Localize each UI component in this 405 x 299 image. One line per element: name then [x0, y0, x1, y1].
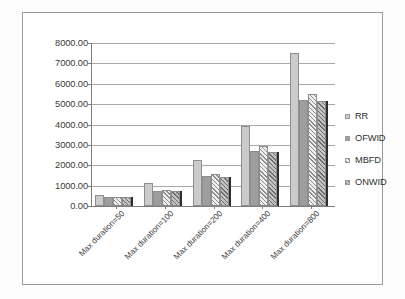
bar-body — [153, 191, 162, 206]
bar-rr-0 — [95, 195, 104, 206]
x-axis-tick-mark — [262, 205, 263, 209]
legend-label: RR — [355, 111, 368, 121]
x-axis-tick-mark — [214, 205, 215, 209]
y-axis-tick-labels: 8000.007000.006000.005000.004000.003000.… — [25, 43, 88, 206]
bar-body — [193, 160, 202, 206]
bar-rr-2 — [193, 160, 202, 206]
bar-shadow — [277, 152, 279, 206]
y-axis-line — [91, 43, 92, 206]
bar-body — [259, 146, 268, 206]
x-axis-tick-labels: Max duration=50Max duration=100Max durat… — [92, 209, 335, 289]
legend-swatch-onwid — [345, 180, 350, 185]
bar-onwid-0 — [122, 197, 131, 206]
bar-body — [268, 152, 277, 206]
chart-frame: 8000.007000.006000.005000.004000.003000.… — [22, 12, 383, 285]
bar-mbfd-4 — [308, 94, 317, 206]
y-axis-tick-label: 8000.00 — [28, 38, 88, 48]
bar-body — [317, 101, 326, 206]
x-axis-tick-label: Max duration=200 — [172, 209, 224, 261]
y-axis-tick-label: 2000.00 — [28, 160, 88, 170]
bar-body — [122, 197, 131, 206]
bar-body — [290, 53, 299, 206]
bar-ofwid-1 — [153, 191, 162, 206]
bar-body — [104, 197, 113, 206]
bar-onwid-4 — [317, 101, 326, 206]
bar-body — [220, 177, 229, 206]
bar-rr-1 — [144, 183, 153, 206]
bar-body — [211, 174, 220, 206]
bar-mbfd-2 — [211, 174, 220, 206]
y-axis-tick-label: 7000.00 — [28, 58, 88, 68]
legend-label: ONWID — [355, 177, 387, 187]
bar-body — [308, 94, 317, 206]
y-axis-tick-label: 4000.00 — [28, 120, 88, 130]
y-axis-tick-label: 1000.00 — [28, 181, 88, 191]
bar-body — [113, 197, 122, 206]
bar-ofwid-4 — [299, 100, 308, 206]
y-axis-tick-label: 0.00 — [28, 201, 88, 211]
legend-label: MBFD — [355, 155, 381, 165]
plot-area — [92, 43, 335, 206]
legend-item-onwid[interactable]: ONWID — [345, 171, 405, 193]
x-axis-tick-mark — [116, 205, 117, 209]
legend-label: OFWID — [355, 133, 385, 143]
bar-body — [299, 100, 308, 206]
bar-ofwid-3 — [250, 151, 259, 206]
legend-swatch-ofwid — [345, 136, 350, 141]
bar-onwid-1 — [171, 191, 180, 206]
bar-group — [95, 43, 131, 206]
bar-onwid-3 — [268, 152, 277, 206]
bar-body — [241, 126, 250, 206]
legend-item-rr[interactable]: RR — [345, 105, 405, 127]
legend-swatch-rr — [345, 114, 350, 119]
figure: 8000.007000.006000.005000.004000.003000.… — [0, 0, 405, 299]
legend-swatch-mbfd — [345, 158, 350, 163]
bar-body — [95, 195, 104, 206]
bar-shadow — [229, 177, 231, 206]
bar-body — [162, 190, 171, 206]
bar-rr-4 — [290, 53, 299, 206]
bar-body — [144, 183, 153, 206]
bar-ofwid-2 — [202, 176, 211, 206]
x-axis-tick-mark — [165, 205, 166, 209]
y-axis-tick-label: 6000.00 — [28, 79, 88, 89]
bar-body — [250, 151, 259, 206]
bar-onwid-2 — [220, 177, 229, 206]
x-axis-tick-label: Max duration=400 — [220, 209, 272, 261]
bar-group — [144, 43, 180, 206]
bar-shadow — [180, 191, 182, 206]
bar-body — [171, 191, 180, 206]
x-axis-tick-label: Max duration=50 — [78, 209, 127, 258]
y-axis-tick-label: 3000.00 — [28, 140, 88, 150]
bar-mbfd-0 — [113, 197, 122, 206]
bar-rr-3 — [241, 126, 250, 206]
bar-ofwid-0 — [104, 197, 113, 206]
bar-mbfd-3 — [259, 146, 268, 206]
bar-body — [202, 176, 211, 206]
y-axis-tick-label: 5000.00 — [28, 99, 88, 109]
bar-group — [241, 43, 277, 206]
legend-item-ofwid[interactable]: OFWID — [345, 127, 405, 149]
bar-group — [290, 43, 326, 206]
bar-mbfd-1 — [162, 190, 171, 206]
bar-shadow — [326, 101, 328, 206]
x-axis-tick-label: Max duration=800 — [269, 209, 321, 261]
legend-item-mbfd[interactable]: MBFD — [345, 149, 405, 171]
x-axis-tick-mark — [311, 205, 312, 209]
bar-group — [193, 43, 229, 206]
x-axis-tick-label: Max duration=100 — [123, 209, 175, 261]
chart-legend: RROFWIDMBFDONWID — [345, 105, 405, 193]
bar-shadow — [131, 197, 133, 206]
